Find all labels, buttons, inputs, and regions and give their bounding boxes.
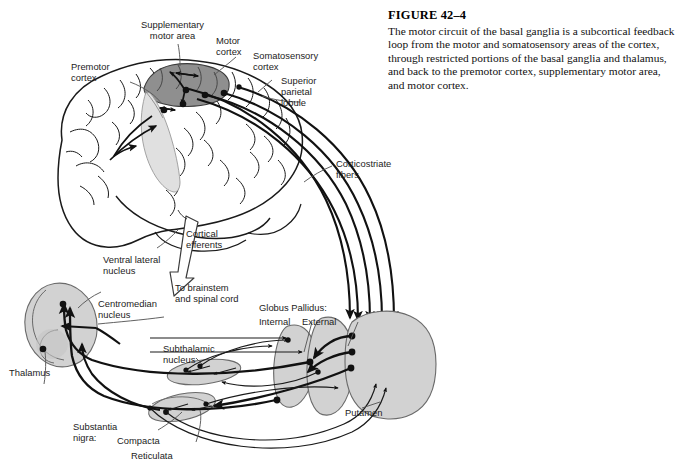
label-thalamus: Thalamus [9, 368, 50, 379]
label-subthalamic-nucleus: Subthalamic nucleus [163, 344, 215, 366]
figure-caption-block: FIGURE 42–4 The motor circuit of the bas… [388, 8, 675, 92]
thalamus-shape [19, 278, 103, 372]
label-globus-pallidus-internal: Internal [259, 317, 290, 328]
label-superior-parietal-lobule: Superior parietal lobule [281, 76, 316, 108]
label-to-brainstem-and-spinal-cord: To brainstem and spinal cord [175, 283, 239, 305]
label-corticostriate-fibers: Corticostriate fibers [336, 159, 391, 181]
brain-outline [58, 60, 302, 252]
label-putamen: Putamen [345, 408, 383, 419]
label-centromedian-nucleus: Centromedian nucleus [98, 299, 157, 321]
label-substantia-nigra: Substantia nigra: [73, 422, 117, 444]
label-ventral-lateral-nucleus: Ventral lateral nucleus [103, 255, 160, 277]
figure-caption-text: The motor circuit of the basal ganglia i… [388, 25, 675, 92]
figure-page: Supplementary motor area Motor cortex So… [0, 0, 681, 475]
label-globus-pallidus-external: External [302, 317, 336, 328]
label-substantia-nigra-compacta: Compacta [117, 436, 160, 447]
label-supplementary-motor-area: Supplementary motor area [141, 20, 204, 42]
figure-number: FIGURE 42–4 [388, 8, 675, 23]
label-substantia-nigra-reticulata: Reticulata [131, 451, 173, 462]
label-motor-cortex: Motor cortex [216, 36, 242, 58]
label-somatosensory-cortex: Somatosensory cortex [253, 51, 318, 73]
putamen-shape [345, 311, 436, 419]
label-cortical-efferents: Cortical efferents [186, 229, 222, 251]
label-globus-pallidus: Globus Pallidus: [259, 303, 327, 314]
label-premotor-cortex: Premotor cortex [71, 62, 110, 84]
